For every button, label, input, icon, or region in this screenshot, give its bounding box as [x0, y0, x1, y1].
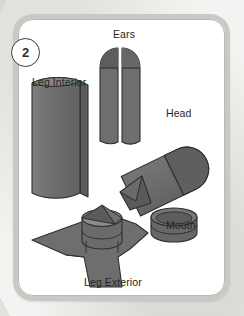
- card-inner-panel: [18, 19, 225, 296]
- label-head: Head: [166, 107, 192, 119]
- label-mouth: Mouth: [166, 219, 196, 231]
- label-ears: Ears: [113, 28, 135, 40]
- label-leg-interior: Leg Interior: [32, 76, 86, 88]
- step-number-badge: 2: [11, 38, 40, 67]
- label-leg-exterior: Leg Exterior: [84, 276, 142, 288]
- diagram-card-page: 2: [0, 0, 244, 316]
